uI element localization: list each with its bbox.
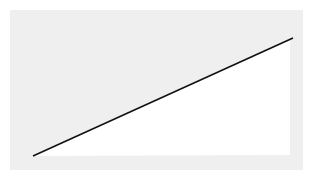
- diagram-canvas: [0, 0, 321, 182]
